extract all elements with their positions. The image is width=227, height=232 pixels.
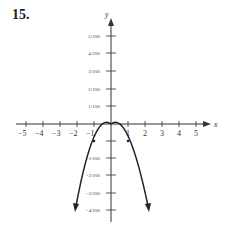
y-axis: y [104, 10, 114, 222]
svg-text:−2/100: −2/100 [86, 173, 101, 178]
svg-text:−4/100: −4/100 [86, 208, 101, 213]
svg-text:4/100: 4/100 [88, 51, 100, 56]
curve-arrow-left-icon [73, 203, 79, 212]
svg-text:4: 4 [177, 129, 181, 138]
svg-text:−1: −1 [86, 129, 95, 138]
svg-text:−3/100: −3/100 [86, 191, 101, 196]
svg-text:3: 3 [160, 129, 164, 138]
x-axis-arrow-icon [203, 121, 211, 127]
parabola-graph: x y −5 −4 −3 −2 −1 1 2 3 4 5 [0, 0, 227, 232]
svg-text:−1/100: −1/100 [86, 156, 101, 161]
x-axis: x [16, 120, 218, 129]
svg-text:−3: −3 [52, 129, 61, 138]
point-marker [127, 140, 130, 143]
x-axis-label: x [213, 120, 218, 129]
svg-text:−4: −4 [35, 129, 44, 138]
y-axis-label: y [104, 10, 109, 19]
svg-text:2: 2 [143, 129, 147, 138]
svg-text:2/100: 2/100 [88, 87, 100, 92]
svg-text:3/100: 3/100 [88, 69, 100, 74]
svg-text:5/100: 5/100 [88, 34, 100, 39]
parabola-curve [73, 122, 151, 212]
svg-text:5: 5 [194, 129, 198, 138]
y-axis-arrow-icon [108, 18, 114, 26]
svg-text:1/100: 1/100 [88, 104, 100, 109]
svg-text:−2: −2 [69, 129, 78, 138]
point-marker [93, 140, 96, 143]
x-tick-labels: −5 −4 −3 −2 −1 1 2 3 4 5 [18, 129, 198, 138]
svg-text:−5: −5 [18, 129, 27, 138]
curve-arrow-right-icon [145, 203, 151, 212]
